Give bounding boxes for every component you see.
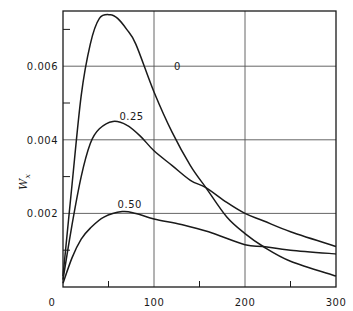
curve-label: 0.25 <box>119 111 143 122</box>
x-tick-label: 300 <box>326 297 347 308</box>
x-tick-label: 0 <box>49 297 56 308</box>
gridlines <box>63 11 336 287</box>
y-tick-label: 0.006 <box>27 61 58 72</box>
curve-label: 0 <box>174 61 181 72</box>
y-tick-label: 0.002 <box>27 208 58 219</box>
x-tick-label: 100 <box>144 297 165 308</box>
y-tick-label: 0.004 <box>27 135 58 146</box>
curve-labels: 00.250.50 <box>118 61 181 210</box>
plot-frame <box>63 11 336 287</box>
y-axis-tick-labels: 0.0020.0040.006 <box>27 61 58 219</box>
curve-0-50 <box>63 211 336 283</box>
curve-0-25 <box>63 121 336 279</box>
x-tick-label: 200 <box>235 297 256 308</box>
curve-0 <box>63 15 336 276</box>
curve-label: 0.50 <box>118 199 142 210</box>
x-axis-tick-labels: 0100200300 <box>49 297 347 308</box>
y-axis-label: Wx <box>17 174 32 190</box>
line-chart: 0100200300 0.0020.0040.006 00.250.50 Wx <box>0 0 353 311</box>
curves <box>63 15 336 284</box>
